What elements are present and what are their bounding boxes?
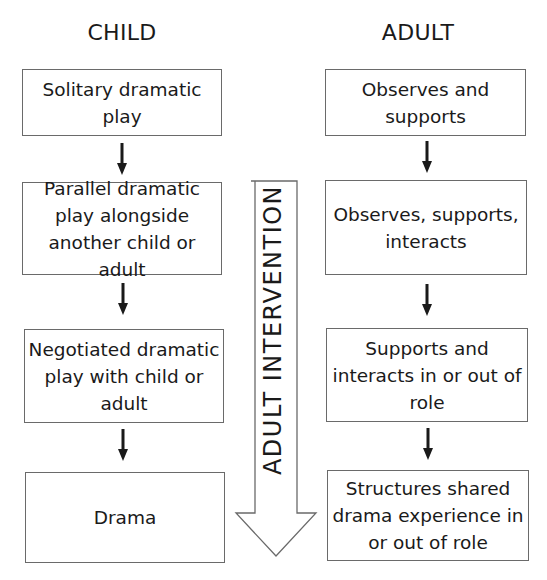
child-box-label: Negotiated dramatic play with child or a… [27, 336, 221, 417]
child-box-negotiated-play: Negotiated dramatic play with child or a… [24, 329, 224, 423]
child-box-label: Parallel dramatic play alongside another… [25, 175, 219, 283]
adult-intervention-label: ADULT INTERVENTION [259, 185, 287, 475]
down-arrow-icon [117, 143, 127, 175]
adult-box-label: Supports and interacts in or out of role [329, 335, 525, 416]
child-box-label: Drama [94, 504, 157, 531]
adult-box-label: Structures shared drama experience in or… [330, 475, 526, 556]
down-arrow-icon [118, 429, 128, 461]
down-arrow-icon [423, 428, 433, 460]
adult-box-label: Observes and supports [328, 76, 523, 130]
down-arrow-icon [422, 284, 432, 316]
adult-column-header: ADULT [310, 20, 526, 45]
down-arrow-icon [118, 283, 128, 315]
child-box-parallel-play: Parallel dramatic play alongside another… [22, 182, 222, 275]
child-column-header: CHILD [22, 20, 222, 45]
adult-box-observes-supports: Observes and supports [325, 69, 526, 136]
child-box-solitary-play: Solitary dramatic play [22, 69, 222, 136]
adult-box-supports-interacts-role: Supports and interacts in or out of role [326, 328, 528, 422]
adult-box-structures-drama: Structures shared drama experience in or… [327, 470, 529, 561]
down-arrow-icon [422, 141, 432, 173]
adult-box-observes-supports-interacts: Observes, supports, interacts [325, 180, 527, 275]
adult-box-label: Observes, supports, interacts [328, 201, 524, 255]
child-box-label: Solitary dramatic play [25, 76, 219, 130]
child-box-drama: Drama [25, 472, 225, 563]
